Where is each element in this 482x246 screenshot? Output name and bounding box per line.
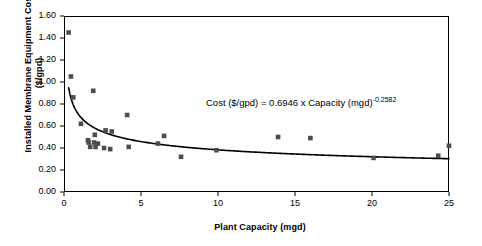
chart-graphics [0,0,482,246]
y-tick-label: 0.40 [22,142,56,152]
x-axis-title: Plant Capacity (mgd) [150,222,370,232]
chart-container: Installed Membrane Equipment Cost ($/gpd… [0,0,482,246]
x-tick-label: 20 [360,198,384,208]
y-tick-label: 1.00 [22,76,56,86]
y-tick-label: 0.00 [22,186,56,196]
y-tick-label: 1.20 [22,54,56,64]
y-tick-label: 0.20 [22,164,56,174]
x-tick-label: 5 [129,198,153,208]
x-tick-label: 15 [283,198,307,208]
y-tick-label: 1.40 [22,32,56,42]
y-tick-label: 1.60 [22,10,56,20]
equation-exponent: -0.2582 [373,96,397,103]
equation-annotation: Cost ($/gpd) = 0.6946 x Capacity (mgd)-0… [206,96,396,108]
y-tick-label: 0.60 [22,120,56,130]
equation-body: Cost ($/gpd) = 0.6946 x Capacity (mgd) [206,97,373,108]
x-tick-label: 0 [52,198,76,208]
x-tick-label: 25 [437,198,461,208]
x-tick-label: 10 [206,198,230,208]
y-tick-label: 0.80 [22,98,56,108]
